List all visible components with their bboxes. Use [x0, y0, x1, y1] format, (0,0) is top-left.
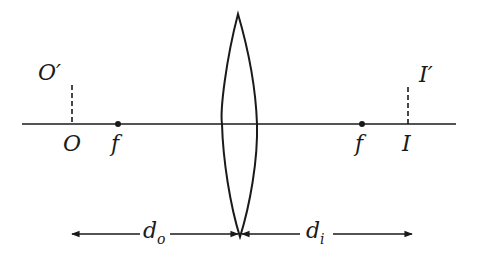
image-distance-label: di [306, 220, 325, 242]
diagram-graphics [0, 0, 477, 257]
focal-label-right: f [355, 133, 363, 155]
focal-point-right [359, 121, 365, 127]
object-distance-label: do [143, 220, 166, 242]
convex-lens [222, 14, 257, 237]
image-distance-subscript: i [320, 231, 324, 247]
image-distance-symbol: d [306, 218, 320, 243]
object-label: O [63, 133, 81, 155]
image-label: I [402, 133, 411, 155]
focal-point-left [115, 121, 121, 127]
object-top-label: O′ [38, 62, 61, 84]
lens-diagram: O′ O f f I I′ do di [0, 0, 477, 257]
image-top-label: I′ [419, 64, 433, 86]
object-distance-subscript: o [157, 231, 165, 247]
focal-label-left: f [111, 133, 119, 155]
object-distance-symbol: d [143, 218, 157, 243]
